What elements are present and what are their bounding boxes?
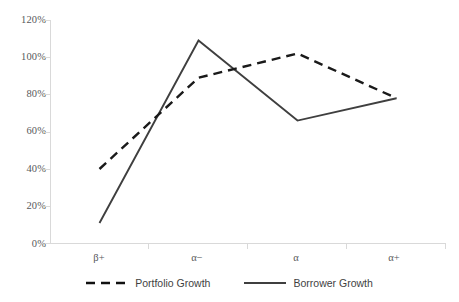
series-line-borrower-growth (100, 40, 397, 223)
chart-legend: Portfolio Growth Borrower Growth (0, 272, 459, 294)
legend-label-borrower-growth: Borrower Growth (293, 277, 372, 289)
legend-item-borrower-growth: Borrower Growth (244, 277, 372, 289)
legend-swatch-dashed-icon (86, 278, 128, 288)
legend-swatch-solid-icon (244, 278, 286, 288)
chart-container: 120% 100% 80% 60% 40% 20% 0% β+ α− α α+ (0, 0, 459, 302)
plot-area (0, 0, 459, 302)
series-line-portfolio-growth (100, 54, 397, 169)
legend-label-portfolio-growth: Portfolio Growth (135, 277, 210, 289)
legend-item-portfolio-growth: Portfolio Growth (86, 277, 210, 289)
